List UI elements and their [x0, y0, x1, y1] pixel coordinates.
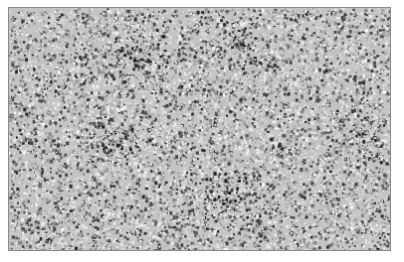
micrograph-frame [8, 7, 391, 251]
micrograph-image [9, 8, 390, 250]
